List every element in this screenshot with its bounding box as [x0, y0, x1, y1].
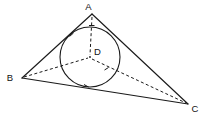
- edge-bc: [22, 78, 188, 104]
- label-vertex-c: C: [192, 103, 199, 114]
- geometry-diagram-svg: A B C D: [0, 0, 207, 120]
- label-incenter-d: D: [94, 46, 101, 57]
- angle-bisectors: [24, 17, 186, 103]
- label-vertex-b: B: [7, 72, 13, 83]
- label-vertex-a: A: [85, 1, 92, 12]
- incenter-point: [89, 56, 91, 58]
- bisector-a-d: [90, 17, 92, 55]
- tangent-tick-marks: [70, 26, 109, 88]
- edge-ac: [92, 14, 188, 104]
- edge-ab: [22, 14, 92, 78]
- triangle-edges: [22, 14, 188, 104]
- geometry-figure-container: A B C D: [0, 0, 207, 120]
- tick-tangent-ac-icon: [105, 68, 109, 71]
